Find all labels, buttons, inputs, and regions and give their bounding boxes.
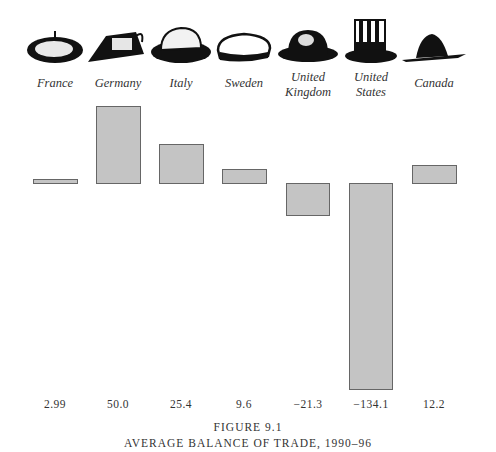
value-label: 2.99 xyxy=(20,398,90,410)
figure-label: FIGURE 9.1 xyxy=(0,421,496,433)
uncle-sam-top-hat-icon xyxy=(339,14,403,68)
value-label: 25.4 xyxy=(146,398,216,410)
bar-united-states xyxy=(349,183,393,390)
value-label: 9.6 xyxy=(209,398,279,410)
fedora-hat-icon xyxy=(149,14,213,68)
tyrolean-hat-icon xyxy=(86,14,150,68)
country-label: Canada xyxy=(394,76,474,91)
value-label: 12.2 xyxy=(399,398,469,410)
chart-title: AVERAGE BALANCE OF TRADE, 1990–96 xyxy=(0,437,496,449)
bar-italy xyxy=(159,144,204,184)
value-label: −21.3 xyxy=(273,398,343,410)
bar-canada xyxy=(412,165,457,184)
beret-hat-icon xyxy=(23,14,87,68)
bowler-hat-icon xyxy=(276,14,340,68)
bar-sweden xyxy=(222,169,267,184)
mountie-hat-icon xyxy=(402,14,466,68)
value-label: 50.0 xyxy=(83,398,153,410)
cap-hat-icon xyxy=(212,14,276,68)
bar-germany xyxy=(96,106,141,184)
bar-united-kingdom xyxy=(286,183,330,216)
value-label: −134.1 xyxy=(336,398,406,410)
bar-france xyxy=(33,179,78,184)
